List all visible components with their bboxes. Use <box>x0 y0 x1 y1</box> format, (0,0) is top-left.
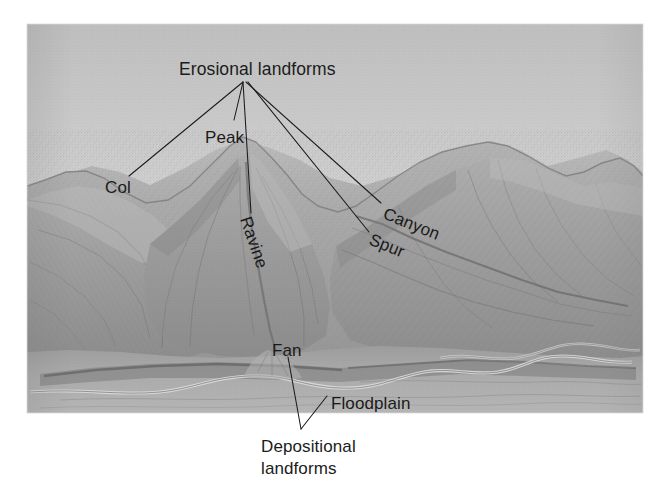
scene <box>27 24 643 420</box>
label-depositional-landforms-line1: Depositional <box>261 437 356 456</box>
label-depositional-landforms-line2: landforms <box>261 459 337 478</box>
label-col: Col <box>105 178 131 197</box>
label-floodplain: Floodplain <box>331 394 410 413</box>
label-erosional-landforms: Erosional landforms <box>179 59 336 79</box>
label-fan: Fan <box>272 341 302 360</box>
landform-illustration: Erosional landforms Col Peak Ravine Cany… <box>0 0 668 494</box>
figure-canvas: Erosional landforms Col Peak Ravine Cany… <box>0 0 668 494</box>
label-peak: Peak <box>205 128 245 147</box>
